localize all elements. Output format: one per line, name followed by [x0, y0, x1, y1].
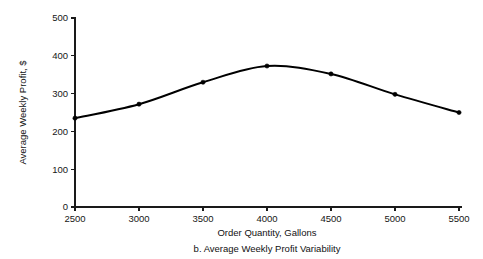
x-tick-label: 3000	[128, 213, 149, 224]
y-axis-title: Average Weekly Profit, $	[17, 60, 28, 165]
y-tick-label: 400	[52, 50, 68, 61]
data-point-marker	[265, 64, 269, 68]
data-point-marker	[329, 72, 333, 76]
figure-caption: b. Average Weekly Profit Variability	[194, 243, 341, 254]
x-tick-label: 5000	[384, 213, 405, 224]
data-point-marker	[137, 102, 141, 106]
y-tick-label: 200	[52, 126, 68, 137]
x-tick-label: 4500	[320, 213, 341, 224]
chart-figure: 0100200300400500250030003500400045005000…	[0, 0, 483, 259]
data-point-marker	[393, 92, 397, 96]
x-tick-label: 3500	[192, 213, 213, 224]
data-point-marker	[73, 116, 77, 120]
data-point-marker	[457, 110, 461, 114]
y-tick-label: 300	[52, 88, 68, 99]
x-tick-label: 4000	[256, 213, 277, 224]
x-tick-label: 2500	[64, 213, 85, 224]
y-tick-label: 500	[52, 12, 68, 23]
x-tick-label: 5500	[448, 213, 469, 224]
data-point-marker	[201, 80, 205, 84]
y-tick-label: 0	[63, 201, 68, 212]
x-axis-title: Order Quantity, Gallons	[217, 227, 316, 238]
y-tick-label: 100	[52, 164, 68, 175]
